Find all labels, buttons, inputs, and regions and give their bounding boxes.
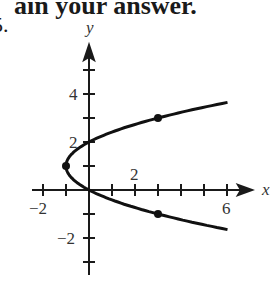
y-tick-label: 4 [69, 85, 78, 104]
marked-point [154, 114, 162, 122]
x-tick-label: 2 [130, 165, 139, 184]
parabola-graph: −22642−2xy [0, 0, 275, 292]
y-axis-label: y [84, 18, 94, 37]
marked-point [154, 210, 162, 218]
x-tick-label: −2 [29, 199, 47, 218]
x-tick-label: 6 [222, 199, 231, 218]
x-axis-arrow-icon [238, 185, 252, 195]
marked-point [62, 162, 70, 170]
y-tick-label: −2 [57, 229, 75, 248]
y-axis-arrow-icon [84, 45, 94, 60]
x-axis-label: x [261, 180, 270, 199]
